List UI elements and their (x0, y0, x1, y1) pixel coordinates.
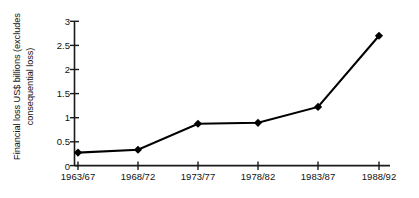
data-series-line (78, 36, 379, 153)
financial-loss-line-chart: Financial loss US$ billions (excludes co… (0, 0, 419, 198)
axis-lines (75, 21, 391, 166)
data-point-marker (254, 119, 262, 127)
plot-area (0, 0, 419, 198)
data-point-marker (194, 120, 202, 128)
data-point-markers (74, 32, 383, 157)
data-point-marker (134, 146, 142, 154)
